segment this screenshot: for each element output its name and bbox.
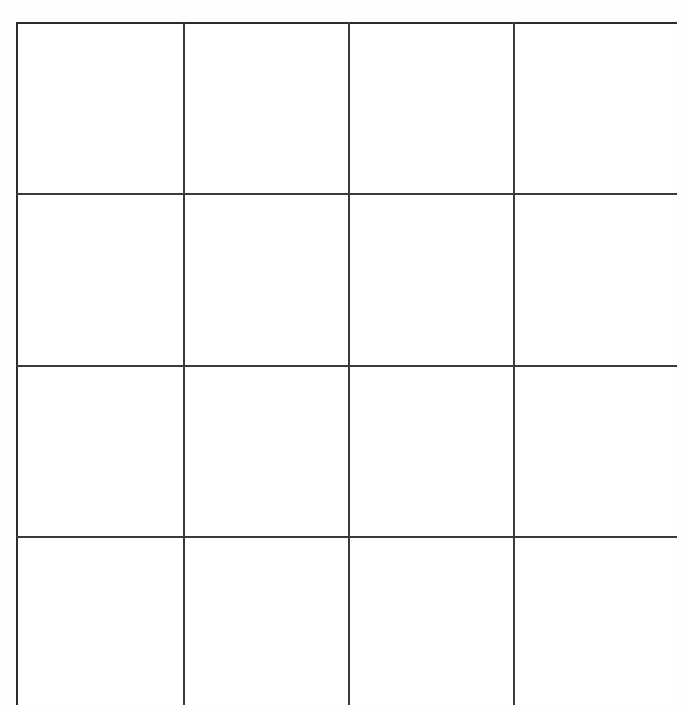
grid-cell-layer xyxy=(16,22,677,705)
grid-cell-r4-c4[interactable] xyxy=(515,538,677,705)
grid-cell-r4-c1[interactable] xyxy=(18,538,183,705)
grid-cell-r2-c2[interactable] xyxy=(185,195,348,365)
grid-cell-r3-c2[interactable] xyxy=(185,367,348,536)
grid-cell-r1-c1[interactable] xyxy=(18,24,183,193)
grid-table xyxy=(16,22,677,705)
grid-cell-r2-c4[interactable] xyxy=(515,195,677,365)
grid-cell-r3-c4[interactable] xyxy=(515,367,677,536)
grid-cell-r1-c3[interactable] xyxy=(350,24,513,193)
grid-cell-r4-c3[interactable] xyxy=(350,538,513,705)
grid-cell-r4-c2[interactable] xyxy=(185,538,348,705)
grid-cell-r3-c3[interactable] xyxy=(350,367,513,536)
grid-cell-r1-c4[interactable] xyxy=(515,24,677,193)
grid-cell-r1-c2[interactable] xyxy=(185,24,348,193)
grid-cell-r3-c1[interactable] xyxy=(18,367,183,536)
grid-cell-r2-c3[interactable] xyxy=(350,195,513,365)
page-canvas xyxy=(0,0,688,710)
grid-cell-r2-c1[interactable] xyxy=(18,195,183,365)
